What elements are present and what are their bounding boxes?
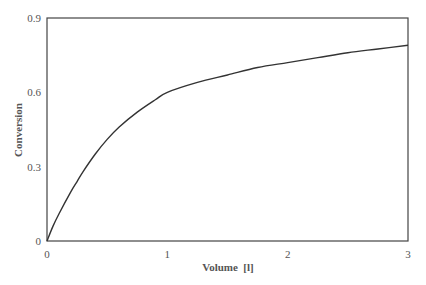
conversion-curve bbox=[47, 45, 408, 241]
y-axis-label: Conversion bbox=[12, 103, 24, 157]
x-axis-label: Volume [l] bbox=[202, 261, 254, 273]
x-tick-label: 3 bbox=[405, 248, 411, 260]
x-tick-label: 2 bbox=[285, 248, 291, 260]
y-axis-ticks: 00.30.60.9 bbox=[27, 12, 41, 247]
y-tick-label: 0 bbox=[36, 235, 42, 247]
y-tick-label: 0.9 bbox=[27, 12, 41, 24]
x-axis-ticks: 0123 bbox=[44, 248, 411, 260]
x-tick-label: 0 bbox=[44, 248, 50, 260]
conversion-chart: 00.30.60.9 0123 Volume [l] Conversion bbox=[0, 0, 426, 285]
y-tick-label: 0.3 bbox=[27, 161, 41, 173]
y-tick-label: 0.6 bbox=[27, 86, 41, 98]
x-tick-label: 1 bbox=[165, 248, 171, 260]
